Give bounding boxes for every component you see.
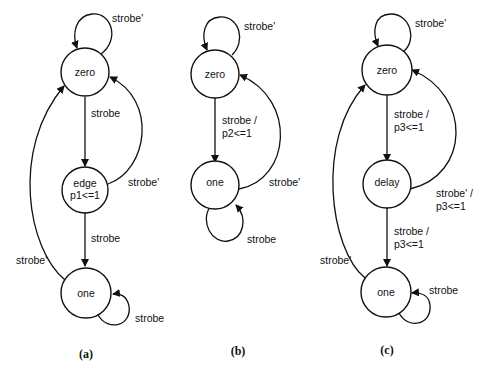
label-b-zero-one-1: strobe / [222,114,257,126]
label-b-zero-self: strobe' [244,20,275,32]
state-c-zero: zero [362,45,412,95]
label-b-zero-one-2: p2<=1 [222,127,252,139]
transition-b-zero-self [204,17,240,55]
state-a-zero: zero [61,48,109,96]
caption-b: (b) [231,344,246,358]
label-c-zero-delay-1: strobe / [394,108,429,120]
diagram-c: strobe' strobe / p3<=1 strobe' / p3<=1 s… [320,14,473,357]
label-a-edge-one: strobe [91,232,120,244]
state-a-edge: edge p1<=1 [62,167,108,213]
transition-b-one-self [206,205,243,241]
label-c-zero-self: strobe' [415,17,446,29]
svg-text:p1<=1: p1<=1 [70,189,100,201]
state-c-delay: delay [363,160,411,208]
svg-text:zero: zero [75,66,96,78]
state-b-zero: zero [191,50,239,98]
label-a-one-zero: strobe' [16,254,47,266]
label-b-one-zero: strobe' [269,176,300,188]
label-b-one-self: strobe [247,233,276,245]
label-a-zero-edge: strobe [91,107,120,119]
state-diagram-figure: strobe' strobe strobe' strobe strobe' st… [0,0,481,378]
svg-text:one: one [206,176,224,188]
label-c-one-zero: strobe' [320,254,351,266]
label-c-one-self: strobe [429,284,458,296]
label-c-delay-one-2: p3<=1 [394,238,424,250]
label-c-delay-zero-2: p3<=1 [436,200,466,212]
transition-a-edge-zero [108,77,142,184]
state-a-one: one [61,268,111,318]
svg-text:one: one [377,286,395,298]
label-c-delay-zero-1: strobe' / [436,187,473,199]
label-a-zero-self: strobe' [112,12,143,24]
label-a-edge-zero: strobe' [128,176,159,188]
state-b-one: one [191,161,239,209]
svg-text:zero: zero [377,64,398,76]
label-c-zero-delay-2: p3<=1 [394,121,424,133]
svg-text:one: one [77,287,95,299]
state-c-one: one [361,267,411,317]
diagram-b: strobe' strobe / p2<=1 strobe' strobe ze… [191,17,300,358]
label-a-one-self: strobe [135,312,164,324]
transition-c-one-zero [333,85,365,278]
transition-a-one-zero [30,86,65,280]
caption-c: (c) [380,343,393,357]
label-c-delay-one-1: strobe / [394,225,429,237]
caption-a: (a) [79,347,93,361]
diagram-a: strobe' strobe strobe' strobe strobe' st… [16,12,164,361]
svg-text:edge: edge [73,177,97,189]
svg-text:zero: zero [205,68,226,80]
svg-text:delay: delay [374,176,400,188]
